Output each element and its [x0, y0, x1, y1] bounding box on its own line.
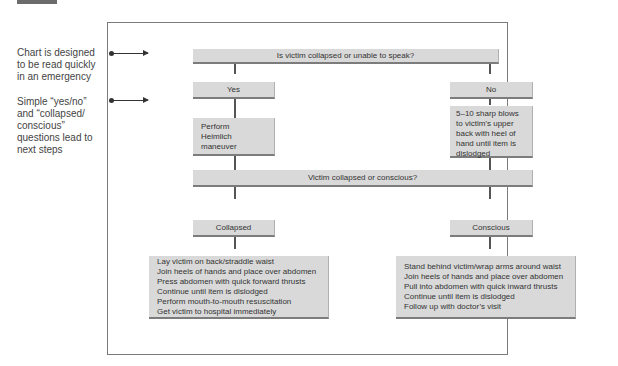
conscious-steps-box: Stand behind victim/wrap arms around wai…	[396, 256, 576, 319]
answer-yes: Yes	[193, 82, 275, 99]
action-heimlich-maneuver: Perform Heimlich maneuver	[193, 118, 275, 156]
list-item: Lay victim on back/straddle waist	[157, 257, 316, 267]
list-item: Follow up with doctor’s visit	[404, 302, 563, 312]
connector	[489, 158, 491, 170]
list-item: Perform mouth-to-mouth resuscitation	[157, 297, 316, 307]
connector	[234, 64, 236, 74]
list-item: Press abdomen with quick forward thrusts	[157, 277, 316, 287]
annotation-simple-questions: Simple “yes/no” and “collapsed/ consciou…	[17, 96, 93, 156]
list-item: Continue until item is dislodged	[404, 292, 563, 302]
collapsed-steps-list: Lay victim on back/straddle waist Join h…	[157, 257, 316, 317]
list-item: Stand behind victim/wrap arms around wai…	[404, 262, 563, 272]
question-collapsed-or-unable-to-speak: Is victim collapsed or unable to speak?	[193, 49, 499, 64]
connector	[234, 237, 236, 249]
list-item: Continue until item is dislodged	[157, 287, 316, 297]
list-item: Pull into abdomen with quick inward thru…	[404, 282, 563, 292]
connector	[489, 237, 491, 249]
annotation-emergency-readability: Chart is designed to be read quickly in …	[17, 47, 95, 83]
connector	[234, 99, 236, 118]
question-collapsed-or-conscious: Victim collapsed or conscious?	[193, 170, 533, 187]
list-item: Join heels of hands and place over abdom…	[404, 272, 563, 282]
action-back-blows: 5–10 sharp blows to victim’s upper back …	[450, 106, 533, 158]
connector	[234, 156, 236, 170]
list-item: Get victim to hospital immediately	[157, 307, 316, 317]
connector	[489, 99, 491, 105]
status-conscious: Conscious	[450, 220, 533, 237]
connector	[489, 64, 491, 74]
conscious-steps-list: Stand behind victim/wrap arms around wai…	[404, 262, 563, 312]
list-item: Join heels of hands and place over abdom…	[157, 267, 316, 277]
connector	[234, 187, 236, 199]
header-tab-block	[17, 0, 57, 4]
answer-no: No	[450, 82, 533, 99]
status-collapsed: Collapsed	[193, 220, 275, 237]
connector	[489, 187, 491, 199]
collapsed-steps-box: Lay victim on back/straddle waist Join h…	[149, 256, 329, 319]
